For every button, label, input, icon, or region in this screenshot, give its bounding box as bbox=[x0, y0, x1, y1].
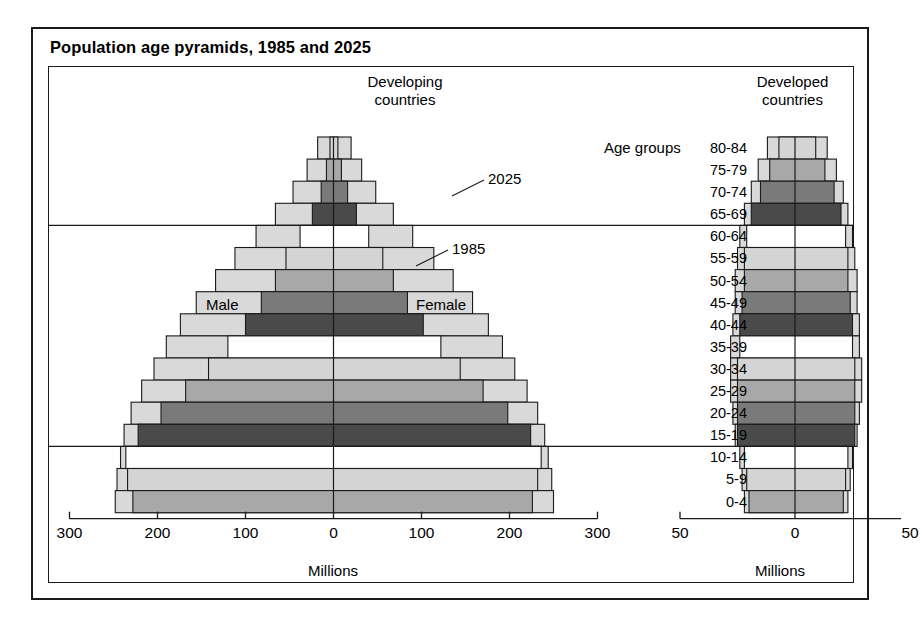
age-group-label: 75-79 bbox=[687, 159, 747, 181]
x-axis-title-developed: Millions bbox=[700, 562, 860, 579]
age-group-label: 15-19 bbox=[687, 424, 747, 446]
figure-title: Population age pyramids, 1985 and 2025 bbox=[50, 38, 371, 57]
age-group-label: 40-44 bbox=[687, 314, 747, 336]
x-axis-tick-label: 200 bbox=[128, 524, 188, 542]
age-group-label: 10-14 bbox=[687, 446, 747, 468]
panel-header-developing-line2: countries bbox=[300, 91, 510, 109]
age-group-label: 20-24 bbox=[687, 402, 747, 424]
panel-header-developing: Developing countries bbox=[300, 73, 510, 108]
age-group-label: 60-64 bbox=[687, 225, 747, 247]
age-group-label: 35-39 bbox=[687, 336, 747, 358]
x-axis-tick-label: 0 bbox=[304, 524, 364, 542]
panel-header-developed-line1: Developed bbox=[725, 73, 860, 91]
x-axis-tick-label: 300 bbox=[568, 524, 628, 542]
age-group-label: 25-29 bbox=[687, 380, 747, 402]
annotation-age-groups: Age groups bbox=[604, 139, 681, 156]
age-group-label: 50-54 bbox=[687, 270, 747, 292]
age-group-label: 45-49 bbox=[687, 292, 747, 314]
x-axis-tick-label: 50 bbox=[880, 524, 923, 542]
annotation-2025: 2025 bbox=[488, 170, 521, 187]
age-group-label: 55-59 bbox=[687, 247, 747, 269]
x-axis-tick-label: 0 bbox=[765, 524, 825, 542]
x-axis-tick-label: 300 bbox=[40, 524, 100, 542]
panel-header-developed: Developed countries bbox=[725, 73, 860, 108]
panel-header-developing-line1: Developing bbox=[300, 73, 510, 91]
age-group-label: 65-69 bbox=[687, 203, 747, 225]
x-axis-tick-label: 100 bbox=[392, 524, 452, 542]
annotation-male: Male bbox=[206, 296, 239, 313]
annotation-female: Female bbox=[416, 296, 466, 313]
panel-header-developed-line2: countries bbox=[725, 91, 860, 109]
x-axis-tick-label: 200 bbox=[480, 524, 540, 542]
age-group-label: 70-74 bbox=[687, 181, 747, 203]
x-axis-tick-label: 100 bbox=[216, 524, 276, 542]
x-axis-title-developing: Millions bbox=[233, 562, 433, 579]
age-group-label: 30-34 bbox=[687, 358, 747, 380]
x-axis-tick-label: 50 bbox=[650, 524, 710, 542]
age-group-label: 80-84 bbox=[687, 137, 747, 159]
age-group-label-column: 80-8475-7970-7465-6960-6455-5950-5445-49… bbox=[687, 137, 747, 513]
age-group-label: 5-9 bbox=[687, 468, 747, 490]
annotation-1985: 1985 bbox=[452, 240, 485, 257]
age-group-label: 0-4 bbox=[687, 491, 747, 513]
